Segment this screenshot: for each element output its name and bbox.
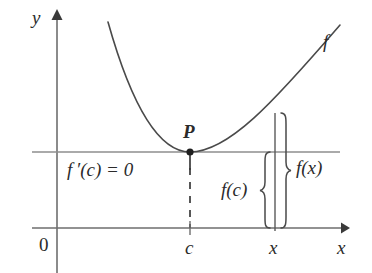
y-axis [52,9,63,273]
x-tick-label-c: c [185,238,193,257]
y-axis-label: y [32,8,40,27]
point-label-p: P [183,122,195,141]
x-axis-label: x [337,238,345,257]
origin-label: 0 [39,235,49,254]
brace-f-of-x [281,113,291,228]
f-of-c-label: f(c) [221,180,247,199]
y-axis-arrow-icon [52,9,63,20]
x-axis-arrow-icon [341,223,350,234]
function-curve-f [108,22,340,152]
curve-label-f: f [323,32,328,51]
derivative-condition-label: f ′(c) = 0 [67,160,133,179]
f-of-x-label: f(x) [296,158,322,177]
x-tick-label-x: x [269,238,277,257]
point-p-marker [186,148,193,155]
x-axis [32,223,350,234]
brace-f-of-c [260,152,270,228]
